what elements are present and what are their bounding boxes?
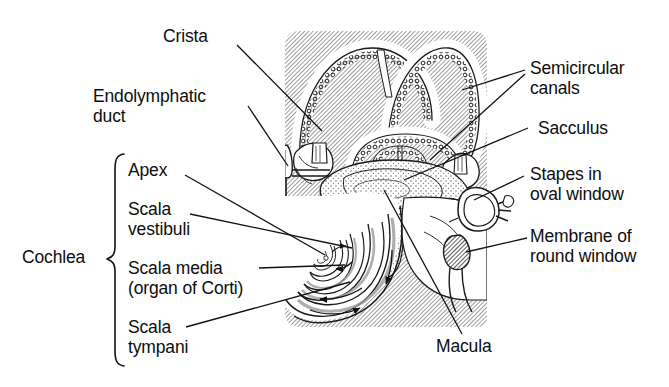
label-stapes-line2: oval window: [530, 184, 624, 204]
inner-ear-diagram: Crista Endolymphatic duct Cochlea Apex S…: [0, 0, 669, 387]
label-scala-vestibuli-line2: vestibuli: [128, 219, 190, 239]
label-cochlea: Cochlea: [22, 247, 85, 267]
label-scala-tympani-line1: Scala: [128, 317, 171, 337]
label-scala-media-line2: (organ of Corti): [128, 278, 243, 298]
label-scala-tympani-line2: tympani: [128, 337, 188, 357]
label-stapes-line1: Stapes in: [530, 164, 602, 184]
label-apex: Apex: [128, 160, 167, 180]
label-endolymphatic-duct-line1: Endolymphatic: [93, 86, 206, 106]
label-semicircular-canals-line1: Semicircular: [530, 58, 624, 78]
label-round-window-line2: round window: [530, 246, 636, 266]
cochlear-apex: [324, 256, 328, 260]
label-round-window-line1: Membrane of: [530, 226, 631, 246]
label-macula: Macula: [436, 336, 492, 356]
label-semicircular-canals-line2: canals: [530, 78, 580, 98]
label-scala-vestibuli-line1: Scala: [128, 199, 171, 219]
label-crista: Crista: [163, 26, 208, 46]
cochlea-brace: [104, 152, 126, 368]
label-endolymphatic-duct-line2: duct: [93, 106, 125, 126]
label-scala-media-line1: Scala media: [128, 258, 223, 278]
label-sacculus: Sacculus: [538, 118, 608, 138]
